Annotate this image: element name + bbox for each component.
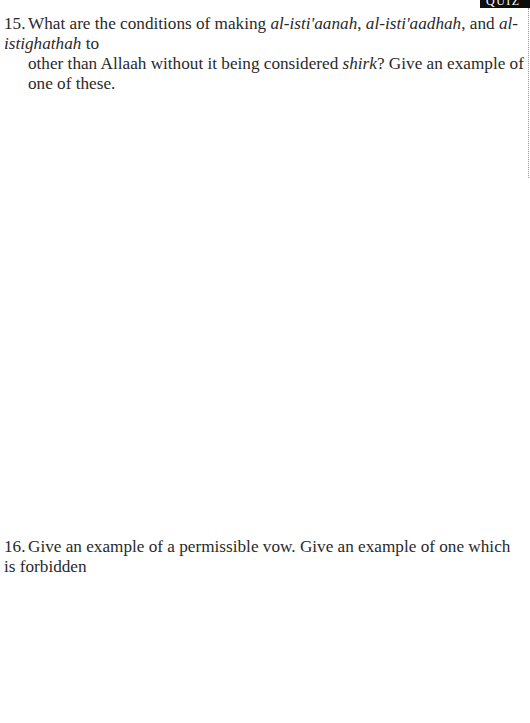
question-15-text-part: to (81, 34, 99, 53)
answer-space-15[interactable] (4, 58, 526, 528)
question-15-line-1: 15.What are the conditions of making al-… (4, 14, 526, 54)
question-16-number: 16. (4, 537, 28, 557)
quiz-header-label: QUIZ (486, 0, 521, 8)
page-edge-dotted-line (528, 8, 529, 178)
question-15-separator: , and (461, 14, 499, 33)
quiz-header-tab: QUIZ (480, 0, 530, 8)
term-al-istiaadhah: al-isti'aadhah (366, 14, 461, 33)
question-15-number: 15. (4, 14, 28, 34)
question-15-separator: , (357, 14, 366, 33)
answer-space-16[interactable] (4, 562, 526, 722)
term-al-istiaanah: al-isti'aanah (270, 14, 357, 33)
question-15-text-part: What are the conditions of making (28, 14, 270, 33)
